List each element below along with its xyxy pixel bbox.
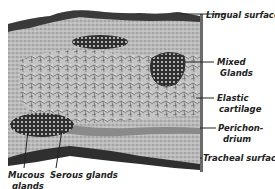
- label-perichondrium-2: drium: [223, 134, 251, 144]
- label-mucous-glands-1: Mucous: [8, 170, 45, 180]
- label-mixed-glands-2: Glands: [220, 68, 253, 78]
- label-lingual-surface: Lingual surface: [206, 10, 275, 20]
- label-tracheal-surface: Tracheal surface: [203, 153, 275, 163]
- label-serous-glands: Serous glands: [50, 170, 118, 180]
- label-elastic-cartilage-2: cartilage: [219, 104, 261, 114]
- label-elastic-cartilage-1: Elastic: [217, 93, 249, 103]
- label-mucous-glands-2: glands: [12, 181, 44, 189]
- label-perichondrium-1: Perichon-: [218, 123, 263, 133]
- mixed-gland-upper: [72, 35, 128, 49]
- mucous-serous-glands: [10, 113, 74, 137]
- label-mixed-glands-1: Mixed: [217, 57, 246, 67]
